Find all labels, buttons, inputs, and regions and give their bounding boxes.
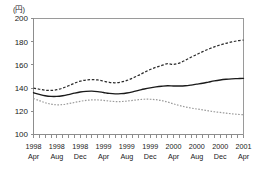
x-tick-label-year: 1998 — [26, 142, 42, 151]
x-tick-label-month: Apr — [28, 152, 40, 161]
y-tick-label: 200 — [15, 14, 29, 23]
x-tick-label-year: 1999 — [96, 142, 112, 151]
data-series-group — [34, 40, 244, 115]
x-tick-label-year: 2000 — [189, 142, 205, 151]
x-tick-label-month: Apr — [98, 152, 110, 161]
chart-container: 100120140160180200 1998Apr1998Aug1998Dec… — [0, 0, 253, 173]
series-line-lower — [34, 99, 244, 115]
x-tick-label-month: Dec — [214, 152, 227, 161]
series-line-upper — [34, 40, 244, 90]
x-tick-label-month: Aug — [50, 152, 63, 161]
x-tick-label-month: Dec — [74, 152, 87, 161]
y-tick-label: 180 — [15, 38, 29, 47]
y-tick-label: 120 — [15, 107, 29, 116]
plot-frame — [34, 19, 244, 135]
x-axis-labels: 1998Apr1998Aug1998Dec1999Apr1999Aug1999D… — [26, 142, 252, 161]
x-tick-label-year: 2001 — [236, 142, 252, 151]
y-tick-label: 140 — [15, 84, 29, 93]
x-tick-label-year: 1998 — [72, 142, 88, 151]
x-tick-label-year: 1999 — [142, 142, 158, 151]
x-tick-label-month: Apr — [238, 152, 250, 161]
y-tick-label: 100 — [15, 130, 29, 139]
y-axis-unit-label: (円) — [13, 5, 25, 14]
x-tick-label-year: 1999 — [119, 142, 135, 151]
y-axis-labels: 100120140160180200 — [15, 14, 29, 139]
x-tick-label-year: 2000 — [212, 142, 228, 151]
x-tick-label-month: Apr — [168, 152, 180, 161]
y-tick-label: 160 — [15, 61, 29, 70]
x-tick-label-month: Aug — [120, 152, 133, 161]
x-tick-label-year: 2000 — [166, 142, 182, 151]
x-tick-label-year: 1998 — [49, 142, 65, 151]
x-tick-label-month: Dec — [144, 152, 157, 161]
x-tick-label-month: Aug — [190, 152, 203, 161]
line-chart: 100120140160180200 1998Apr1998Aug1998Dec… — [0, 0, 253, 173]
